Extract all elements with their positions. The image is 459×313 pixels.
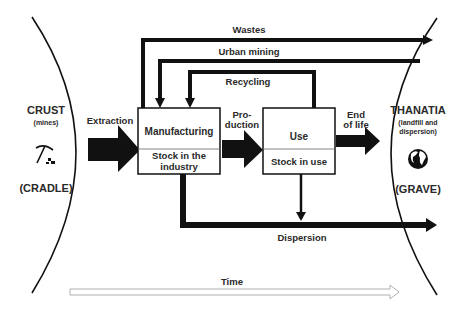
thanatia-subtitle-line1: (landfill and bbox=[398, 119, 437, 127]
wastes-label: Wastes bbox=[233, 24, 266, 35]
dispersion-flow-line bbox=[183, 174, 428, 225]
urban-mining-label: Urban mining bbox=[218, 46, 279, 57]
wastes-arrowhead bbox=[423, 35, 433, 45]
time-label: Time bbox=[221, 276, 243, 287]
manufacturing-box-title: Manufacturing bbox=[145, 126, 214, 137]
thanatia-title: THANATIA bbox=[390, 104, 445, 116]
recycling-label: Recycling bbox=[226, 76, 271, 87]
production-arrow bbox=[222, 130, 263, 168]
use-box-title: Use bbox=[290, 131, 309, 142]
production-label-line2: duction bbox=[225, 119, 259, 130]
dispersion-label: Dispersion bbox=[277, 232, 326, 243]
material-lifecycle-diagram: CRUST (mines) (CRADLE) THANATIA (landfil… bbox=[0, 0, 459, 313]
thanatia-subtitle-line2: dispersion) bbox=[399, 128, 437, 136]
time-arrow bbox=[70, 285, 399, 299]
recycling-arrowhead bbox=[185, 98, 195, 108]
crust-subtitle: (mines) bbox=[34, 119, 59, 127]
end-of-life-label-line2: of life bbox=[343, 119, 368, 130]
grave-label: (GRAVE) bbox=[395, 183, 441, 195]
use-dispersion-arrowhead bbox=[296, 212, 306, 221]
cradle-label: (CRADLE) bbox=[19, 182, 72, 194]
urban-mining-arrowhead bbox=[155, 98, 165, 108]
manufacturing-box-stock-line1: Stock in the bbox=[152, 150, 206, 161]
globe-icon bbox=[408, 149, 428, 169]
dispersion-arrowhead bbox=[426, 218, 437, 232]
crust-title: CRUST bbox=[27, 104, 65, 116]
pickaxe-icon bbox=[36, 146, 55, 164]
crust-boundary-curve bbox=[32, 17, 76, 293]
manufacturing-box-stock-line2: industry bbox=[160, 161, 198, 172]
use-box-stock: Stock in use bbox=[271, 156, 327, 167]
end-of-life-arrow bbox=[336, 127, 380, 155]
extraction-arrow bbox=[88, 125, 140, 172]
extraction-label: Extraction bbox=[87, 115, 134, 126]
urban-mining-flow-line bbox=[160, 61, 420, 100]
